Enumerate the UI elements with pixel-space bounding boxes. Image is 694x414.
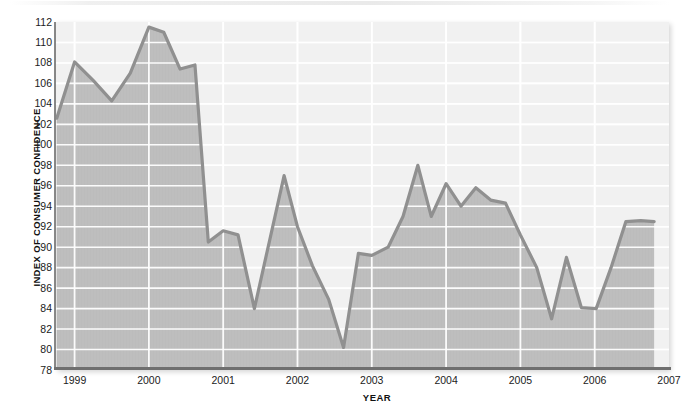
plot-area [56,22,669,370]
consumer-confidence-chart-figure: INDEX OF CONSUMER CONFIDENCE 11211010810… [0,0,694,414]
y-tick-label: 112 [26,17,52,28]
y-tick-label: 84 [26,303,52,314]
x-tick-label: 2006 [565,374,625,386]
y-axis-tick-labels: 1121101081061041021009896949290888684828… [22,0,52,414]
y-tick-label: 100 [26,139,52,150]
x-tick-label: 2007 [639,374,694,386]
x-axis-line [54,367,671,370]
y-tick-label: 92 [26,221,52,232]
y-tick-label: 82 [26,324,52,335]
x-axis-title: YEAR [0,392,694,403]
chart-svg [56,22,669,370]
x-tick-label: 2004 [416,374,476,386]
x-axis-tick-labels: 199920002001200220032004200520062007 [0,374,694,390]
y-tick-label: 98 [26,160,52,171]
y-tick-label: 96 [26,180,52,191]
x-tick-label: 2002 [267,374,327,386]
y-tick-label: 80 [26,344,52,355]
y-tick-label: 110 [26,37,52,48]
y-tick-label: 86 [26,283,52,294]
scan-artifact-band [10,1,670,5]
y-tick-label: 88 [26,262,52,273]
y-tick-label: 102 [26,119,52,130]
y-tick-label: 90 [26,242,52,253]
x-tick-label: 2005 [490,374,550,386]
y-tick-label: 108 [26,57,52,68]
y-tick-label: 94 [26,201,52,212]
x-tick-label: 1999 [45,374,105,386]
y-tick-label: 104 [26,98,52,109]
plot-inner [56,22,669,370]
y-tick-label: 106 [26,78,52,89]
x-tick-label: 2003 [342,374,402,386]
x-axis-title-text: YEAR [363,392,391,403]
x-tick-label: 2001 [193,374,253,386]
x-tick-label: 2000 [119,374,179,386]
